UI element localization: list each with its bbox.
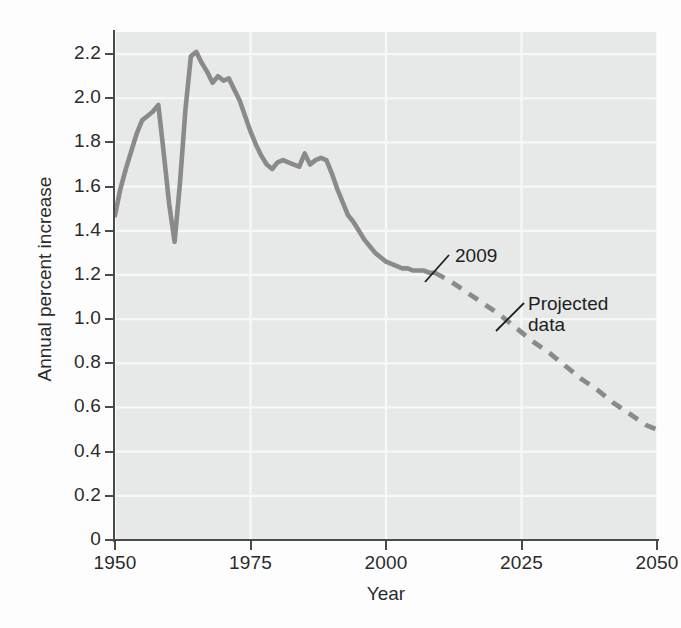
y-axis-title: Annual percent increase xyxy=(34,69,56,489)
y-axis-line xyxy=(113,30,115,542)
x-axis-title: Year xyxy=(115,583,657,605)
y-axis-tick-mark xyxy=(105,451,114,453)
plot-canvas xyxy=(115,32,657,540)
y-axis-tick-mark xyxy=(105,406,114,408)
y-axis-tick-mark xyxy=(105,362,114,364)
annotation-projected-data-label: Projected data xyxy=(528,293,608,336)
y-axis-tick-mark xyxy=(105,495,114,497)
chart-figure: 00.20.40.60.81.01.21.41.61.82.02.2 19501… xyxy=(0,0,681,628)
x-axis-tick-mark xyxy=(250,541,252,550)
x-axis-tick-mark xyxy=(521,541,523,550)
x-axis-tick-label: 2025 xyxy=(477,552,567,574)
plot-area xyxy=(115,32,657,540)
x-axis-tick-mark xyxy=(385,541,387,550)
y-axis-tick-mark xyxy=(105,539,114,541)
vertical-gridlines xyxy=(115,32,657,540)
x-axis-tick-label: 1975 xyxy=(206,552,296,574)
x-axis-tick-label: 2000 xyxy=(341,552,431,574)
x-axis-tick-label: 1950 xyxy=(70,552,160,574)
y-axis-tick-mark xyxy=(105,274,114,276)
x-axis-tick-label: 2050 xyxy=(612,552,681,574)
y-axis-tick-mark xyxy=(105,97,114,99)
y-axis-tick-mark xyxy=(105,53,114,55)
x-axis-tick-mark xyxy=(114,541,116,550)
annotation-2009-label: 2009 xyxy=(455,245,497,266)
y-axis-tick-label: 0 xyxy=(1,528,101,550)
y-axis-tick-mark xyxy=(105,141,114,143)
y-axis-tick-mark xyxy=(105,186,114,188)
y-axis-tick-mark xyxy=(105,318,114,320)
y-axis-tick-label: 2.2 xyxy=(1,42,101,64)
y-axis-tick-mark xyxy=(105,230,114,232)
x-axis-tick-mark xyxy=(656,541,658,550)
